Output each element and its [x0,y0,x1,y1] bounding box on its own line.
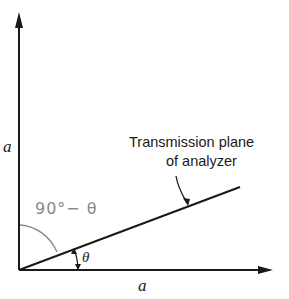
horizontal-arrowhead-icon [258,266,273,274]
complement-angle-arc [20,225,57,252]
vertical-axis-label: a [3,138,12,155]
theta-arc [71,248,81,270]
annotation-line-2: of analyzer [166,154,237,169]
complement-angle-label: 90°− θ [35,201,98,217]
vertical-axis [15,12,23,270]
pointer-arrow [176,176,190,206]
horizontal-axis [19,266,273,274]
theta-label: θ [82,250,89,265]
polarization-diagram: a a Transmission plane of analyzer θ 90°… [0,0,289,299]
annotation-line-1: Transmission plane [129,135,254,150]
vertical-arrowhead-icon [15,12,23,28]
pointer-arrowhead-icon [183,198,190,206]
horizontal-axis-label: a [138,277,147,294]
